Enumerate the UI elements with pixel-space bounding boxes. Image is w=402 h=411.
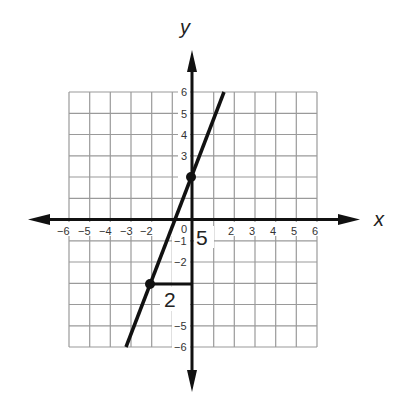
x-tick: 3 (249, 225, 255, 237)
x-tick: −4 (99, 225, 112, 237)
x-tick: 4 (270, 225, 276, 237)
y-tick: 3 (181, 150, 187, 162)
x-tick: 2 (228, 225, 234, 237)
point-neg2-neg3 (145, 279, 155, 289)
y-tick: −1 (174, 235, 187, 247)
y-axis-label: y (178, 16, 191, 38)
x-tick: −6 (57, 225, 70, 237)
x-tick: 5 (291, 225, 297, 237)
x-axis-left-arrow-icon (28, 214, 50, 225)
x-tick: −3 (120, 225, 133, 237)
y-axis-up-arrow-icon (187, 50, 197, 72)
rise-annotation: 5 (196, 226, 208, 249)
y-tick: 6 (181, 86, 187, 98)
x-axis-right-arrow-icon (338, 214, 360, 225)
run-annotation: 2 (164, 288, 176, 311)
y-tick: −2 (174, 256, 187, 268)
x-tick: 6 (312, 225, 318, 237)
y-tick: 5 (181, 108, 187, 120)
y-axis-down-arrow-icon (187, 370, 197, 392)
origin-label: 0 (181, 223, 187, 235)
x-axis-label: x (373, 208, 385, 230)
point-y-intercept (186, 172, 196, 182)
coordinate-plane: y x −6 −5 −4 −3 −2 0 2 3 4 5 6 6 5 4 3 −… (0, 0, 402, 411)
x-tick: −5 (78, 225, 91, 237)
y-tick: −6 (174, 341, 187, 353)
y-tick: −5 (174, 320, 187, 332)
y-tick: 4 (181, 129, 187, 141)
x-tick: −2 (140, 225, 153, 237)
